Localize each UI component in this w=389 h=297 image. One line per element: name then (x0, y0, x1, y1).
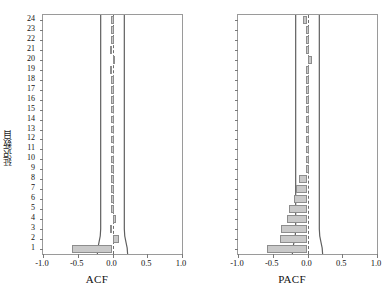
x-tick-label: 0.0 (301, 259, 312, 268)
y-tick-label: 4 (31, 214, 35, 222)
correlation-bar (281, 225, 307, 233)
y-tick-label: 6 (31, 194, 35, 202)
correlation-bar (306, 66, 308, 74)
correlation-bar (111, 26, 113, 34)
correlation-bar (111, 86, 113, 94)
y-tick-label: 19 (27, 65, 35, 73)
acf-pacf-figure: 延迟数目 24232221201918171615141312111098765… (0, 0, 389, 297)
correlation-bar (111, 195, 113, 203)
correlation-bar (306, 46, 308, 54)
correlation-bar (299, 175, 307, 183)
y-tick-label: 15 (27, 105, 35, 113)
y-tick-label: 8 (31, 174, 35, 182)
y-tick-label: 12 (27, 134, 35, 142)
correlation-bar (72, 245, 112, 253)
y-tick-label: 17 (27, 85, 35, 93)
x-tick-label: 0.0 (106, 259, 117, 268)
y-tick-label: 16 (27, 95, 35, 103)
y-tick-label: 9 (31, 164, 35, 172)
y-tick-label: 18 (27, 75, 35, 83)
correlation-bar (111, 136, 113, 144)
correlation-bar (306, 76, 308, 84)
correlation-bar (296, 185, 307, 193)
y-tick-label: 10 (27, 154, 35, 162)
y-tick-label: 22 (27, 35, 35, 43)
x-tick-label: -0.5 (265, 259, 278, 268)
y-tick-label: 1 (31, 244, 35, 252)
correlation-bar (306, 96, 308, 104)
correlation-bar (308, 56, 313, 64)
y-tick-label: 14 (27, 115, 35, 123)
correlation-bar (294, 195, 308, 203)
acf-panel: 延迟数目 24232221201918171615141312111098765… (0, 0, 194, 297)
correlation-bar (306, 165, 308, 173)
correlation-bar (306, 156, 308, 164)
correlation-bar (111, 175, 113, 183)
correlation-bar (306, 26, 308, 34)
correlation-bar (287, 215, 308, 223)
pacf-y-tick-labels (195, 14, 235, 253)
correlation-bar (306, 136, 308, 144)
correlation-bar (306, 116, 308, 124)
y-tick-label: 3 (31, 224, 35, 232)
correlation-bar (113, 215, 116, 223)
correlation-bar (306, 86, 308, 94)
correlation-bar (111, 146, 113, 154)
correlation-bar (280, 235, 308, 243)
y-tick-label: 20 (27, 55, 35, 63)
correlation-bar (110, 66, 113, 74)
correlation-bar (306, 36, 308, 44)
correlation-bar (267, 245, 307, 253)
y-tick-label: 7 (31, 184, 35, 192)
correlation-bar (306, 106, 308, 114)
acf-y-tick-labels: 242322212019181716151413121110987654321 (0, 14, 40, 253)
y-tick-label: 13 (27, 125, 35, 133)
x-tick-label: 0.5 (141, 259, 152, 268)
correlation-bar (306, 146, 308, 154)
y-tick-label: 21 (27, 45, 35, 53)
x-tick-label: -0.5 (70, 259, 83, 268)
y-tick-label: 23 (27, 25, 35, 33)
correlation-bar (111, 16, 113, 24)
correlation-bar (303, 16, 307, 24)
correlation-bar (289, 205, 307, 213)
x-tick-label: 1.0 (371, 259, 382, 268)
pacf-x-axis-title: PACF (195, 273, 389, 285)
pacf-panel: PACF -1.0-0.50.00.51.0 (195, 0, 389, 297)
correlation-bar (111, 36, 113, 44)
acf-plot-area (42, 14, 183, 255)
correlation-bar (111, 96, 113, 104)
correlation-bar (111, 156, 113, 164)
correlation-bar (111, 185, 113, 193)
x-tick-label: -1.0 (230, 259, 243, 268)
correlation-bar (306, 126, 308, 134)
acf-x-axis-title: ACF (0, 273, 194, 285)
correlation-bar (111, 116, 113, 124)
pacf-plot-area (237, 14, 378, 255)
correlation-bar (111, 165, 113, 173)
correlation-bar (111, 205, 113, 213)
y-tick-label: 11 (27, 144, 35, 152)
correlation-bar (111, 126, 113, 134)
correlation-bar (113, 56, 116, 64)
x-tick-label: -1.0 (35, 259, 48, 268)
correlation-bar (111, 106, 113, 114)
y-tick-label: 5 (31, 204, 35, 212)
correlation-bar (111, 76, 113, 84)
correlation-bar (110, 46, 113, 54)
y-tick-label: 24 (27, 15, 35, 23)
correlation-bar (110, 225, 113, 233)
x-tick-label: 1.0 (176, 259, 187, 268)
x-tick-label: 0.5 (336, 259, 347, 268)
correlation-bar (113, 235, 120, 243)
y-tick-label: 2 (31, 234, 35, 242)
